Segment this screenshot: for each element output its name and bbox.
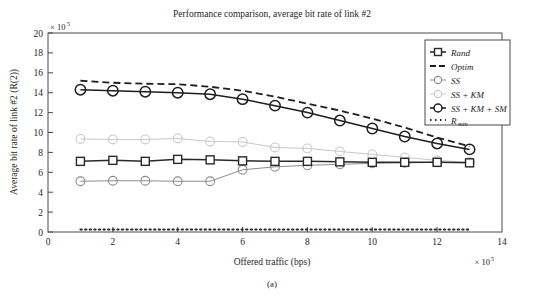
x-exponent-power: 5 — [491, 256, 494, 262]
y-exponent-power: 5 — [67, 21, 70, 27]
x-tick-label: 2 — [111, 237, 116, 247]
data-point-marker — [271, 157, 279, 165]
data-point-marker — [109, 156, 117, 164]
x-tick-label: 0 — [46, 237, 51, 247]
circle-marker-icon — [434, 104, 442, 112]
data-series-layer — [75, 81, 475, 230]
x-tick-label: 10 — [368, 237, 378, 247]
x-tick-label: 14 — [497, 237, 507, 247]
y-tick-label: 0 — [38, 228, 43, 238]
legend-label: SS + KM + SM — [451, 104, 507, 114]
series-line — [80, 81, 469, 147]
y-tick-label: 18 — [34, 48, 44, 58]
y-tick-label: 2 — [38, 208, 43, 218]
x-tick-label: 8 — [305, 237, 310, 247]
x-tick-label: 6 — [240, 237, 245, 247]
data-point-marker — [76, 157, 84, 165]
circle-marker-icon — [434, 90, 441, 97]
x-exponent-prefix: × 10 — [475, 257, 490, 267]
legend-label: Optim — [451, 62, 474, 72]
data-point-marker — [433, 158, 441, 166]
series-optim — [80, 81, 469, 147]
y-tick-label: 20 — [34, 29, 44, 39]
figure-container: Performance comparison, average bit rate… — [0, 0, 544, 300]
chart-legend[interactable]: Rand Optim SS SS + KM SS + KM + SM — [425, 40, 510, 127]
y-tick-label: 8 — [38, 148, 43, 158]
series-rand — [76, 155, 473, 166]
x-tick-label: 4 — [175, 237, 180, 247]
data-point-marker — [466, 159, 474, 167]
data-point-marker — [174, 155, 182, 163]
legend-label: SS — [451, 76, 461, 86]
data-point-marker — [303, 157, 311, 165]
y-tick-label: 10 — [34, 128, 44, 138]
legend-label: SS + KM — [451, 90, 485, 100]
legend-sublabel: min — [458, 120, 468, 127]
x-axis-title: Offered traffic (bps) — [234, 257, 311, 268]
data-point-marker — [239, 157, 247, 165]
y-exponent-prefix: × 10 — [50, 22, 65, 32]
y-tick-label: 6 — [38, 168, 43, 178]
data-point-marker — [368, 158, 376, 166]
y-tick-label: 4 — [38, 188, 43, 198]
y-axis-exponent: × 10 5 — [50, 21, 70, 32]
chart-svg: Performance comparison, average bit rate… — [0, 0, 544, 300]
data-point-marker — [401, 158, 409, 166]
y-tick-label: 12 — [34, 108, 44, 118]
legend-item-ss-km[interactable]: SS + KM — [430, 90, 485, 100]
y-axis-title: Average bit rate of link #2 (R(2)) — [9, 69, 20, 195]
legend-item-rand[interactable]: Rand — [430, 48, 470, 58]
series-ss-km-sm — [75, 85, 475, 155]
data-point-marker — [206, 156, 214, 164]
figure-caption: (a) — [267, 279, 277, 289]
circle-marker-icon — [434, 76, 441, 83]
legend-label: R — [450, 116, 457, 126]
y-tick-label: 16 — [34, 68, 44, 78]
chart-title: Performance comparison, average bit rate… — [173, 9, 371, 19]
x-tick-label: 12 — [432, 237, 442, 247]
y-axis-ticks: 0 2 4 6 8 10 12 14 16 18 20 — [34, 29, 54, 238]
legend-label: Rand — [450, 48, 470, 58]
y-tick-label: 14 — [34, 88, 44, 98]
x-axis-exponent: × 10 5 — [475, 256, 494, 267]
data-point-marker — [141, 157, 149, 165]
series-line — [80, 90, 469, 150]
data-point-marker — [336, 158, 344, 166]
square-marker-icon — [435, 49, 442, 56]
